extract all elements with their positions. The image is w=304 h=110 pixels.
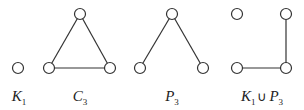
graph-p3 bbox=[135, 9, 209, 74]
vertex bbox=[44, 63, 55, 74]
label-k1: K1 bbox=[12, 88, 27, 107]
label-k1-union-p3: K1∪P3 bbox=[241, 88, 283, 107]
edge bbox=[172, 14, 203, 68]
vertex bbox=[75, 9, 86, 20]
graph-c3 bbox=[44, 9, 116, 74]
vertex bbox=[167, 9, 178, 20]
vertex bbox=[281, 9, 292, 20]
vertex bbox=[105, 63, 116, 74]
vertex bbox=[232, 9, 243, 20]
vertex bbox=[13, 63, 24, 74]
edge bbox=[80, 14, 110, 68]
edge bbox=[140, 14, 172, 68]
vertex bbox=[135, 63, 146, 74]
edge bbox=[49, 14, 80, 68]
vertex bbox=[198, 63, 209, 74]
vertex bbox=[232, 63, 243, 74]
graph-k1up3 bbox=[232, 9, 292, 74]
label-p3: P3 bbox=[165, 88, 179, 107]
label-c3: C3 bbox=[73, 88, 88, 107]
graph-k1 bbox=[13, 63, 24, 74]
vertex bbox=[281, 63, 292, 74]
